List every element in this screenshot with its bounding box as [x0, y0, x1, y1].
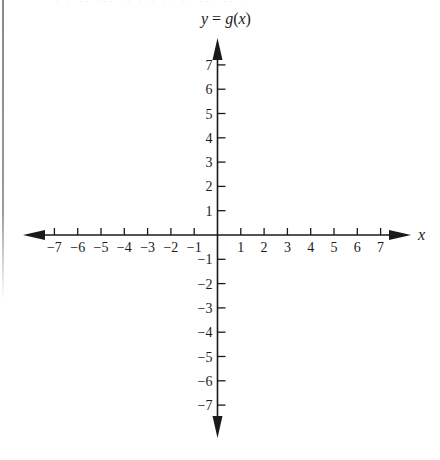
x-tick-label: 6 — [354, 240, 361, 255]
x-tick-label: −2 — [163, 240, 178, 255]
y-axis-down-arrow-icon — [213, 416, 223, 438]
x-axis-ticks: −7−6−5−4−3−2−11234567 — [47, 228, 384, 255]
y-label-function: g — [225, 10, 233, 28]
x-tick-label: −7 — [47, 240, 62, 255]
y-tick-label: 5 — [206, 107, 213, 122]
y-tick-label: −4 — [198, 325, 213, 340]
y-tick-label: 2 — [206, 179, 213, 194]
y-tick-label: 7 — [206, 58, 213, 73]
x-tick-label: −3 — [140, 240, 155, 255]
y-tick-label: −2 — [198, 277, 213, 292]
y-tick-label: −7 — [198, 398, 213, 413]
y-axis-up-arrow-icon — [213, 38, 223, 60]
x-tick-label: −6 — [70, 240, 85, 255]
x-tick-label: −4 — [117, 240, 132, 255]
y-label-variable: x — [237, 10, 245, 27]
y-tick-label: −6 — [198, 374, 213, 389]
y-tick-label: −3 — [198, 301, 213, 316]
y-label-paren-close: ) — [246, 10, 251, 28]
x-axis-left-arrow-icon — [23, 230, 45, 240]
y-tick-label: 1 — [206, 204, 213, 219]
coordinate-plane: −7−6−5−4−3−2−11234567 7654321−1−2−3−4−5−… — [0, 0, 440, 460]
x-tick-label: 4 — [307, 240, 314, 255]
x-tick-label: 7 — [377, 240, 384, 255]
y-axis — [213, 38, 223, 438]
y-tick-label: −5 — [198, 350, 213, 365]
x-tick-label: 5 — [331, 240, 338, 255]
x-tick-label: 2 — [261, 240, 268, 255]
y-label-equals: = — [208, 10, 225, 27]
y-axis-label: y = g(x) — [199, 10, 251, 28]
x-tick-label: −5 — [94, 240, 109, 255]
x-tick-label: 3 — [284, 240, 291, 255]
x-tick-label: 1 — [237, 240, 244, 255]
x-axis-right-arrow-icon — [389, 230, 411, 240]
y-tick-label: 6 — [206, 82, 213, 97]
x-axis-label: x — [417, 226, 425, 243]
y-tick-label: −1 — [198, 252, 213, 267]
y-tick-label: 3 — [206, 155, 213, 170]
y-tick-label: 4 — [206, 131, 213, 146]
